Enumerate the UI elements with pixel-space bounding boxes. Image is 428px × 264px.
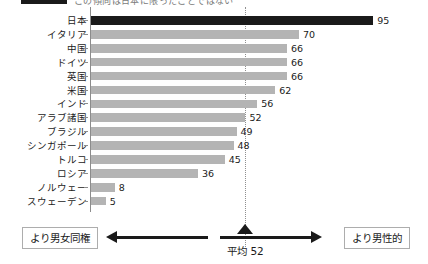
axis-tick [84,187,88,188]
bar-row: ブラジル49 [0,125,428,138]
bar-row: スウェーデン5 [0,195,428,208]
bar-value-label: 66 [291,42,303,55]
bar-row: 中国66 [0,42,428,55]
axis-tick [84,76,88,77]
bar-chart: 日本95イタリア70中国66ドイツ66英国66米国62インド56アラブ諸国52ブ… [0,7,428,219]
bar-row: ノルウェー8 [0,181,428,194]
annotation-right-more-masculine: より男性的 [344,227,410,249]
bar [91,58,287,67]
bar-row: トルコ45 [0,153,428,166]
axis-tick [84,159,88,160]
axis-tick [84,117,88,118]
bar [91,100,257,109]
category-label: シンガポール [27,139,87,152]
bar [91,44,287,53]
bar [91,197,106,206]
arrow-head-right-icon [311,231,322,243]
category-label: イタリア [47,28,87,41]
bar [91,141,234,150]
bar-row: 日本95 [0,14,428,27]
bar-row: イタリア70 [0,28,428,41]
mean-value-label: 平均 52 [215,243,275,258]
bar-value-label: 66 [291,56,303,69]
axis-tick [84,131,88,132]
bar [91,16,373,25]
arrow-shaft-right [220,236,312,239]
bar-value-label: 45 [229,153,241,166]
category-label: インド [57,97,87,110]
bar-value-label: 62 [279,84,291,97]
bar [91,183,115,192]
chart-footer-annotation: より男女同権 平均 52 より男性的 [0,219,428,264]
category-label: ロシア [57,167,87,180]
bar-value-label: 52 [249,111,261,124]
header-color-swatch [21,0,67,4]
axis-tick [84,20,88,21]
bar-value-label: 56 [261,97,273,110]
bar-value-label: 70 [303,28,315,41]
bar [91,86,275,95]
bar [91,127,237,136]
category-label: ノルウェー [37,181,87,194]
bar-value-label: 8 [119,181,125,194]
bar-row: 英国66 [0,70,428,83]
bar-value-label: 66 [291,70,303,83]
arrow-shaft-left [116,236,208,239]
bar-row: アラブ諸国52 [0,111,428,124]
bar [91,30,299,39]
annotation-left-more-gender-equal: より男女同権 [22,227,98,249]
bar-row: ロシア36 [0,167,428,180]
bar-value-label: 48 [238,139,250,152]
bar-value-label: 5 [110,195,116,208]
bar-row: インド56 [0,97,428,110]
header-cut-off-text: この傾向は日本に限ったことではない [74,0,234,7]
bar [91,169,198,178]
category-label: スウェーデン [27,195,87,208]
axis-tick [84,173,88,174]
bar [91,72,287,81]
category-label: アラブ諸国 [37,111,87,124]
axis-tick [84,90,88,91]
cut-off-header-strip: この傾向は日本に限ったことではない [0,0,428,7]
category-label: ドイツ [57,56,87,69]
axis-tick [84,48,88,49]
mean-triangle-marker-icon [237,224,253,234]
axis-tick [84,34,88,35]
bar-value-label: 95 [377,14,389,27]
axis-tick [84,145,88,146]
bar-row: シンガポール48 [0,139,428,152]
bar [91,113,245,122]
bar-row: 米国62 [0,84,428,97]
axis-tick [84,201,88,202]
bar [91,155,225,164]
category-label: ブラジル [47,125,87,138]
axis-tick [84,62,88,63]
category-label: トルコ [57,153,87,166]
bar-row: ドイツ66 [0,56,428,69]
bar-value-label: 49 [241,125,253,138]
axis-tick [84,103,88,104]
bar-value-label: 36 [202,167,214,180]
